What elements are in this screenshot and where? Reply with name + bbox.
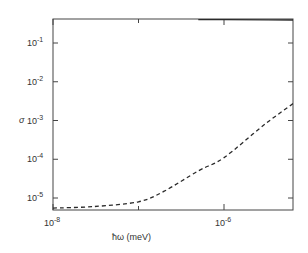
dashed-curve — [53, 38, 308, 208]
y-tick-label: 10-4 — [27, 152, 43, 164]
y-tick-label: 10-1 — [27, 36, 43, 48]
plot-border — [53, 19, 293, 210]
x-tick-label: 10-8 — [44, 216, 60, 228]
y-axis-ticks: 10-110-210-310-410-5 — [27, 36, 293, 203]
y-axis-label: σ — [19, 115, 25, 125]
x-tick-label: 10-6 — [215, 216, 231, 228]
chart: 10-810-610-4 10-110-210-310-410-5 σ ħω (… — [0, 0, 308, 253]
y-tick-label: 10-3 — [27, 114, 43, 126]
plot-frame — [53, 19, 293, 210]
solid-curve — [198, 20, 308, 88]
x-axis-label: ħω (meV) — [112, 232, 151, 242]
y-tick-label: 10-5 — [27, 191, 43, 203]
y-tick-label: 10-2 — [27, 75, 43, 87]
series-layer — [53, 20, 308, 208]
x-axis-ticks: 10-810-610-4 — [44, 19, 308, 228]
